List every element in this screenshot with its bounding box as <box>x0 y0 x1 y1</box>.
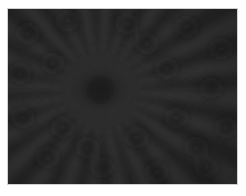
starburst-pattern <box>8 9 237 184</box>
starburst-image <box>7 8 238 185</box>
